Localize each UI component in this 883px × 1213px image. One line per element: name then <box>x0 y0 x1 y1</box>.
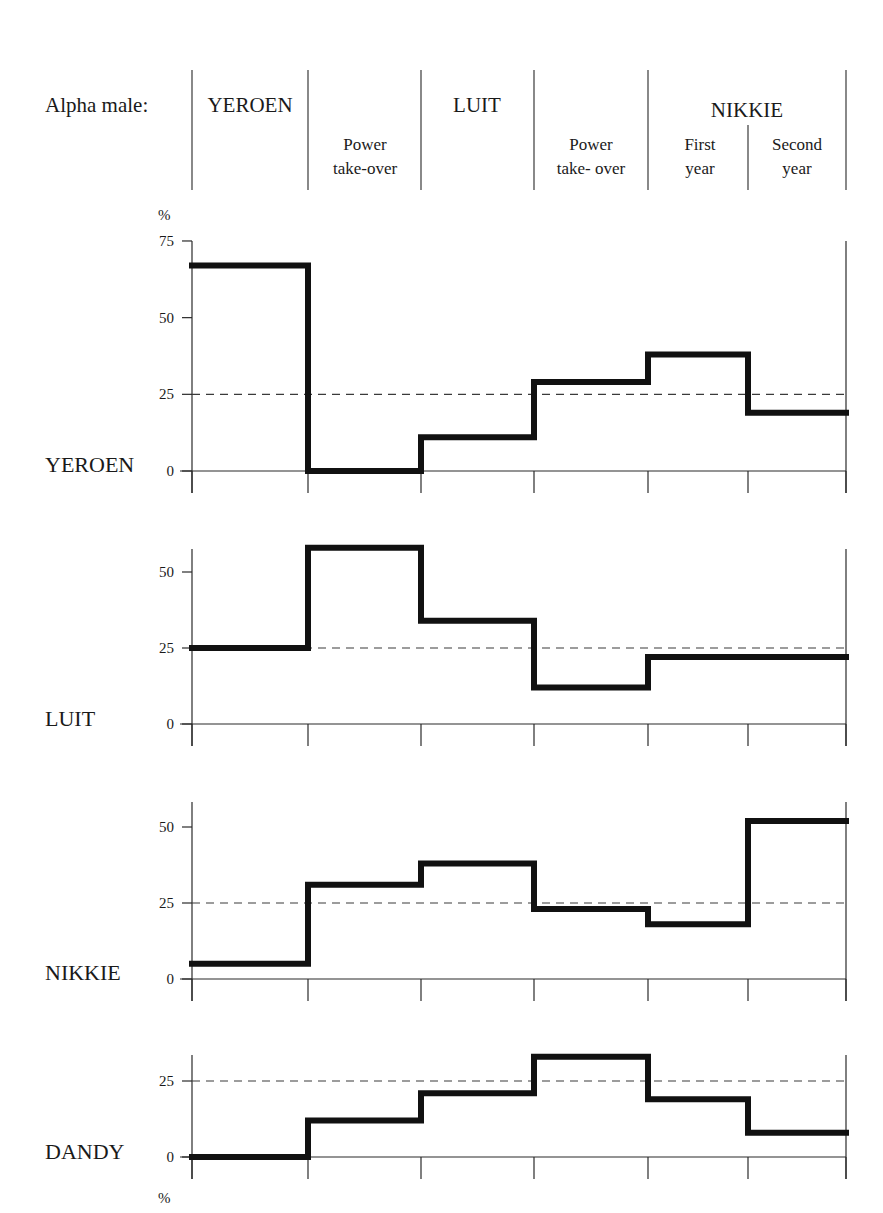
step-line-dandy <box>192 1057 846 1157</box>
header-row: Alpha male:YEROENLUITNIKKIEPowertake-ove… <box>45 70 846 223</box>
panel-dandy: DANDY025 <box>45 1055 846 1179</box>
y-tick-label: 25 <box>159 895 174 911</box>
period-sub-first-year-line1: First <box>684 135 715 154</box>
y-tick-label: 0 <box>167 463 175 479</box>
period-alpha-luit: LUIT <box>453 93 501 117</box>
y-tick-label: 25 <box>159 386 174 402</box>
y-tick-label: 0 <box>167 716 175 732</box>
y-tick-label: 0 <box>167 1149 175 1165</box>
y-tick-label: 50 <box>159 564 174 580</box>
y-tick-label: 50 <box>159 310 174 326</box>
period-sub-second-year-line1: Second <box>772 135 823 154</box>
y-tick-label: 25 <box>159 640 174 656</box>
step-line-yeroen <box>192 266 846 471</box>
chart-canvas: Alpha male:YEROENLUITNIKKIEPowertake-ove… <box>0 0 883 1213</box>
panel-luit: LUIT02550 <box>45 548 846 746</box>
y-tick-label: 50 <box>159 819 174 835</box>
unit-label-top: % <box>158 207 171 223</box>
period-sub-first-year-line2: year <box>685 159 715 178</box>
panels: YEROEN0255075LUIT02550NIKKIE02550DANDY02… <box>45 233 846 1206</box>
y-tick-label: 75 <box>159 233 174 249</box>
period-sub-takeover-2-line2: take- over <box>557 159 626 178</box>
period-sub-second-year-line2: year <box>782 159 812 178</box>
step-line-nikkie <box>192 821 846 964</box>
panel-yeroen: YEROEN0255075 <box>45 233 846 493</box>
panel-label-dandy: DANDY <box>45 1139 125 1164</box>
period-sub-takeover-1-line2: take-over <box>333 159 398 178</box>
alpha-male-label: Alpha male: <box>45 93 148 117</box>
y-tick-label: 0 <box>167 971 175 987</box>
panel-label-yeroen: YEROEN <box>45 452 134 477</box>
panel-nikkie: NIKKIE02550 <box>45 802 846 1001</box>
panel-label-luit: LUIT <box>45 706 96 731</box>
unit-label-bottom: % <box>158 1190 171 1206</box>
step-line-luit <box>192 548 846 688</box>
period-alpha-nikkie: NIKKIE <box>711 98 783 122</box>
y-tick-label: 25 <box>159 1073 174 1089</box>
period-sub-takeover-2-line1: Power <box>569 135 613 154</box>
panel-label-nikkie: NIKKIE <box>45 960 121 985</box>
period-sub-takeover-1-line1: Power <box>343 135 387 154</box>
period-alpha-yeroen: YEROEN <box>207 93 292 117</box>
